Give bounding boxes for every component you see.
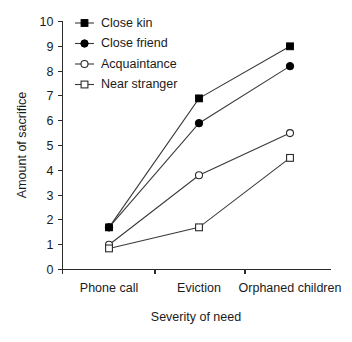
data-point-marker [105, 224, 112, 231]
chart-legend: Close kinClose friendAcquaintanceNear st… [75, 16, 177, 92]
y-tick-label: 2 [47, 213, 54, 227]
legend-label: Near stranger [101, 77, 177, 91]
x-tick-label: Orphaned children [239, 281, 342, 295]
data-point-marker [196, 95, 203, 102]
series-close-kin [106, 43, 294, 231]
legend-label: Acquaintance [101, 57, 177, 71]
y-tick-label: 10 [40, 15, 54, 29]
data-point-marker [286, 62, 293, 69]
chart-figure: 012345678910 Phone callEvictionOrphaned … [0, 0, 352, 342]
series-layer [105, 43, 293, 252]
data-point-marker [106, 245, 113, 252]
legend-marker-filled-square-icon [81, 20, 88, 27]
legend-item-close-friend: Close friend [75, 36, 168, 50]
y-tick-label: 3 [47, 189, 54, 203]
data-point-marker [287, 155, 294, 162]
data-point-marker [195, 119, 202, 126]
legend-item-near-stranger: Near stranger [75, 77, 177, 91]
y-tick-label: 4 [47, 164, 54, 178]
x-axis-title: Severity of need [151, 310, 241, 324]
legend-marker-open-square-icon [81, 81, 88, 88]
y-axis-title: Amount of sacrifice [15, 92, 29, 198]
y-tick-label: 8 [47, 65, 54, 79]
legend-label: Close friend [101, 36, 168, 50]
y-tick-label: 0 [47, 263, 54, 277]
y-tick-label: 7 [47, 89, 54, 103]
data-point-marker [287, 130, 294, 137]
y-tick-label: 5 [47, 139, 54, 153]
data-point-marker [196, 172, 203, 179]
x-tick-label: Eviction [177, 281, 221, 295]
line-chart: 012345678910 Phone callEvictionOrphaned … [0, 0, 352, 342]
y-tick-label: 1 [47, 238, 54, 252]
data-point-marker [287, 43, 294, 50]
series-line [109, 46, 290, 227]
y-axis-ticks: 012345678910 [40, 15, 63, 277]
x-axis-ticks: Phone callEvictionOrphaned children [63, 270, 342, 296]
x-tick-label: Phone call [80, 281, 138, 295]
legend-marker-filled-circle-icon [81, 40, 88, 47]
y-tick-label: 6 [47, 114, 54, 128]
legend-label: Close kin [101, 16, 152, 30]
legend-item-close-kin: Close kin [75, 16, 152, 30]
legend-marker-open-circle-icon [81, 61, 88, 68]
legend-item-acquaintance: Acquaintance [75, 57, 177, 71]
series-near-stranger [106, 155, 294, 252]
data-point-marker [196, 224, 203, 231]
y-tick-label: 9 [47, 40, 54, 54]
